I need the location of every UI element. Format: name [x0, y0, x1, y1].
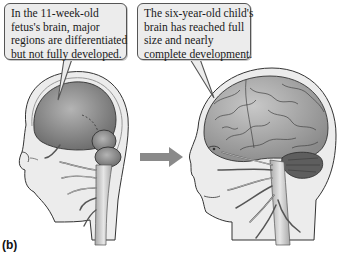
callout-child-line-3: size and nearly [144, 34, 245, 48]
callout-fetus: In the 11-week-old fetus's brain, major … [4, 3, 127, 60]
right-arrow-icon [140, 147, 183, 167]
callout-fetus-line-4: but not fully developed. [11, 48, 121, 62]
callout-child-line-1: The six-year-old child's [144, 7, 245, 21]
callout-fetus-line-3: regions are differentiated [11, 34, 121, 48]
fetus-head-illustration [19, 72, 128, 245]
panel-label: (b) [2, 238, 17, 252]
callout-child: The six-year-old child's brain has reach… [137, 3, 251, 60]
callout-fetus-line-2: fetus's brain, major [11, 21, 121, 35]
callout-fetus-line-1: In the 11-week-old [11, 7, 121, 21]
callout-child-line-2: brain has reached full [144, 21, 245, 35]
callout-child-line-4: complete development. [144, 48, 245, 62]
